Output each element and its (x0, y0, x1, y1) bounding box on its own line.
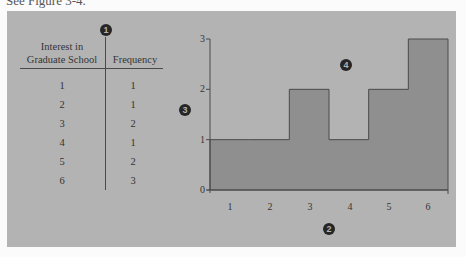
histogram-bars (210, 39, 448, 190)
x-tick-label: 2 (260, 201, 280, 212)
marker-4-icon: 4 (340, 59, 352, 71)
x-tick-label: 4 (340, 201, 360, 212)
y-tick-label: 3 (193, 33, 205, 44)
marker-3-icon: 3 (179, 104, 191, 116)
y-tick-label: 2 (193, 83, 205, 94)
x-tick-label: 3 (300, 201, 320, 212)
marker-2-icon: 2 (323, 223, 335, 235)
histogram-chart (0, 0, 466, 257)
x-tick-label: 5 (379, 201, 399, 212)
x-tick-label: 1 (220, 201, 240, 212)
y-tick-label: 1 (193, 134, 205, 145)
y-tick-label: 0 (193, 184, 205, 195)
x-tick-label: 6 (418, 201, 438, 212)
